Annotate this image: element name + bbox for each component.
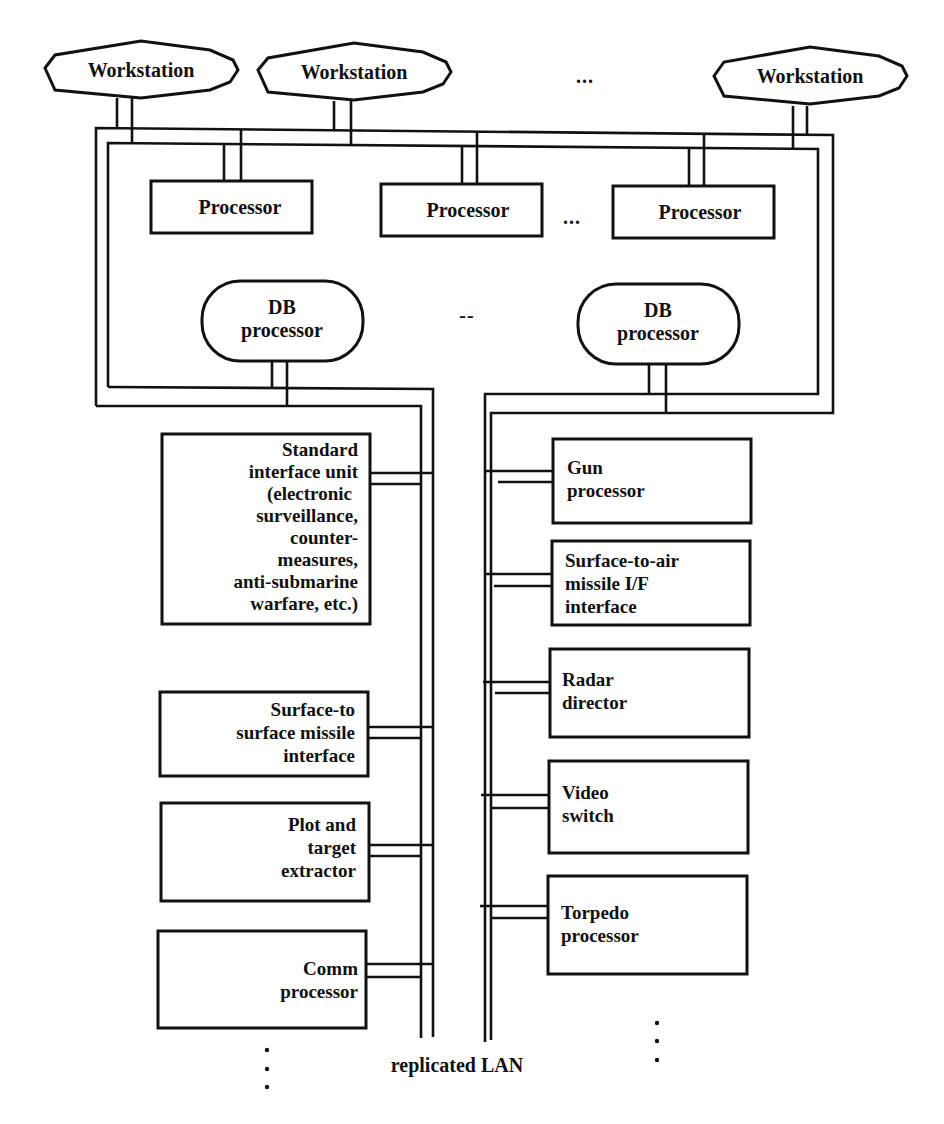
unit-label-line: interface (283, 745, 355, 766)
workstation-ellipsis: ... (576, 65, 594, 87)
unit-label-line: measures, (278, 549, 359, 570)
left-unit-comm-processor: Comm processor (158, 931, 366, 1028)
unit-label-line: processor (280, 981, 358, 1002)
right-unit-radar-director: Radar director (550, 649, 749, 737)
unit-label-line: counter- (290, 527, 358, 548)
db-processor-node: DB processor (202, 281, 363, 361)
unit-label-line: processor (567, 480, 645, 501)
db-processor-label: processor (241, 319, 323, 342)
unit-label-line: missile I/F (565, 573, 649, 594)
unit-label-line: anti-submarine (233, 571, 358, 592)
unit-label-line: interface (565, 596, 637, 617)
unit-label-line: Comm (303, 958, 358, 979)
left-unit-plot-target-extractor: Plot and target extractor (161, 803, 369, 901)
processor-node: Processor (381, 184, 542, 236)
right-unit-video-switch: Video switch (549, 761, 748, 853)
unit-label-line: target (307, 837, 356, 858)
processor-node: Processor (151, 181, 312, 233)
unit-label-line: interface unit (249, 461, 359, 482)
unit-label-line: surveillance, (256, 505, 358, 526)
workstation-label: Workstation (301, 61, 408, 83)
unit-label-line: Surface-to-air (565, 550, 680, 571)
unit-label-line: processor (561, 925, 639, 946)
unit-label-line: (electronic (267, 483, 352, 505)
unit-label-line: Plot and (288, 814, 357, 835)
db-processor-node: DB processor (578, 284, 739, 364)
unit-label-line: extractor (281, 860, 356, 881)
unit-label-line: Gun (567, 457, 603, 478)
unit-label-line: Standard (282, 439, 358, 460)
processor-label: Processor (199, 196, 282, 218)
workstation-node: Workstation (45, 41, 238, 98)
db-ellipsis: -- (459, 304, 474, 326)
workstation-label: Workstation (88, 59, 195, 81)
right-unit-surface-to-air: Surface-to-air missile I/F interface (552, 541, 750, 625)
unit-label-line: Surface-to (271, 699, 355, 720)
left-continuation-dots (265, 1048, 269, 1089)
left-unit-surface-to-surface: Surface-to surface missile interface (160, 692, 368, 776)
unit-label-line: switch (562, 805, 614, 826)
processor-label: Processor (427, 199, 510, 221)
unit-label-line: Radar (562, 669, 614, 690)
left-unit-standard-interface: Standard interface unit (electronic surv… (162, 434, 370, 624)
right-unit-gun-processor: Gun processor (553, 439, 751, 523)
unit-label-line: surface missile (236, 722, 355, 743)
lan-label: replicated LAN (391, 1054, 524, 1077)
unit-label-line: Torpedo (561, 902, 629, 923)
processor-node: Processor (613, 186, 774, 238)
unit-label-line: director (562, 692, 628, 713)
system-architecture-diagram: Workstation Workstation ... Workstation (0, 0, 944, 1124)
workstation-node: Workstation (714, 47, 907, 104)
processor-ellipsis: ... (563, 206, 581, 228)
unit-label-line: warfare, etc.) (250, 593, 358, 615)
db-processor-label: processor (617, 322, 699, 345)
workstation-label: Workstation (757, 65, 864, 87)
left-unit-connectors (366, 473, 433, 977)
unit-label-line: Video (562, 782, 609, 803)
db-processor-label: DB (268, 296, 296, 318)
processor-connectors (224, 130, 704, 186)
processor-label: Processor (659, 201, 742, 223)
right-unit-torpedo-processor: Torpedo processor (548, 876, 747, 974)
right-continuation-dots (655, 1021, 659, 1062)
db-processor-label: DB (644, 299, 672, 321)
workstation-node: Workstation (258, 43, 451, 100)
